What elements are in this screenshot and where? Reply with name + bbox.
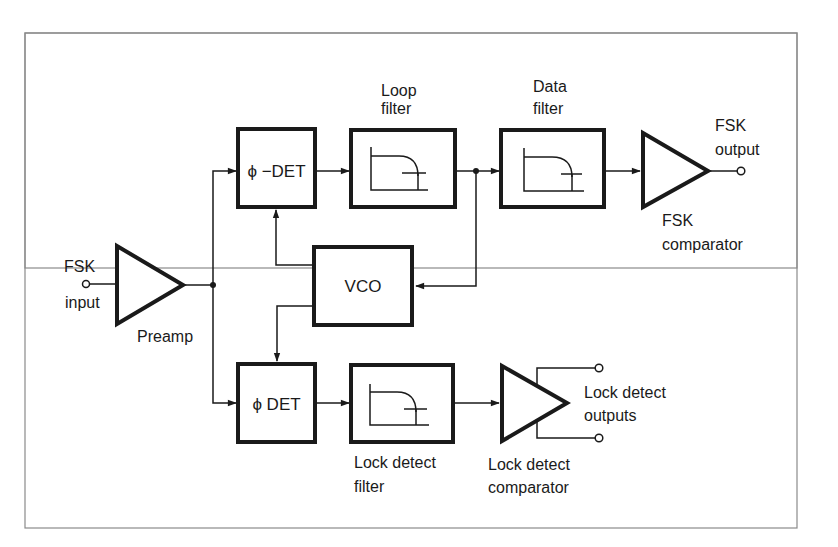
phase-detector-label: ϕ −DET	[247, 162, 305, 181]
data-filter-label-1: Data	[533, 78, 567, 95]
lock-detect-output-terminal-1	[595, 364, 603, 372]
data-filter-block	[501, 130, 604, 207]
loop-filter-label-1: Loop	[381, 82, 417, 99]
fsk-output-label-2: output	[715, 141, 760, 158]
lock-detect-comparator-label-1: Lock detect	[488, 456, 570, 473]
fsk-output-label-1: FSK	[715, 117, 746, 134]
fsk-output-terminal	[737, 167, 745, 175]
lock-detect-output-terminal-2	[595, 434, 603, 442]
fsk-input-terminal	[83, 281, 90, 288]
lock-detect-comparator-triangle	[502, 366, 567, 441]
loop-filter-label-2: filter	[381, 100, 412, 117]
lock-detect-filter-label-1: Lock detect	[354, 454, 436, 471]
lock-detect-comparator-label-2: comparator	[488, 479, 570, 496]
lock-detect-outputs-label-1: Lock detect	[584, 384, 666, 401]
fsk-comparator-label-2: comparator	[662, 236, 744, 253]
fsk-input-label-2: input	[65, 294, 100, 311]
fsk-comparator-label-1: FSK	[662, 212, 693, 229]
loop-filter-block	[351, 130, 455, 207]
data-filter-label-2: filter	[533, 100, 564, 117]
preamp-label: Preamp	[137, 328, 193, 345]
preamp-triangle	[117, 246, 183, 324]
vco-label: VCO	[345, 277, 382, 296]
lock-detect-filter-block	[351, 365, 453, 442]
fsk-demodulator-diagram: FSK input Preamp ϕ −DET Loop filter Data…	[0, 0, 838, 547]
lock-detect-filter-label-2: filter	[354, 478, 385, 495]
fsk-comparator-triangle	[643, 133, 708, 207]
lock-detect-outputs-label-2: outputs	[584, 407, 636, 424]
fsk-input-label-1: FSK	[64, 258, 95, 275]
lock-phase-detector-label: ϕ DET	[252, 395, 300, 414]
